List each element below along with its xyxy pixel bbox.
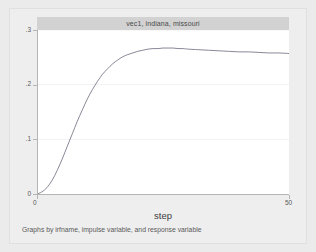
panel-title: vec1, indiana, missouri xyxy=(126,20,200,27)
x-axis-line xyxy=(37,194,289,195)
gridlines-group xyxy=(37,30,289,139)
x-axis-title: step xyxy=(37,211,289,221)
x-tick-mark xyxy=(37,195,38,199)
panel-title-band: vec1, indiana, missouri xyxy=(37,17,289,30)
y-tick-mark xyxy=(33,30,37,31)
figure-note: Graphs by irfname, impulse variable, and… xyxy=(22,227,201,234)
y-tick-label: .3 xyxy=(26,27,31,34)
plot-svg xyxy=(37,30,289,194)
y-tick-label: .1 xyxy=(26,136,31,143)
plot-area xyxy=(37,30,289,194)
y-tick-label: 0 xyxy=(27,191,31,198)
y-tick-mark xyxy=(33,139,37,140)
irf-line-series xyxy=(37,48,289,194)
x-tick-label: 50 xyxy=(285,200,292,207)
stata-irf-graph: vec1, indiana, missouri 0.1.2.3 050 step… xyxy=(0,0,316,252)
y-tick-label: .2 xyxy=(26,81,31,88)
y-axis-line xyxy=(37,30,38,195)
x-tick-label: 0 xyxy=(33,200,37,207)
y-tick-mark xyxy=(33,85,37,86)
